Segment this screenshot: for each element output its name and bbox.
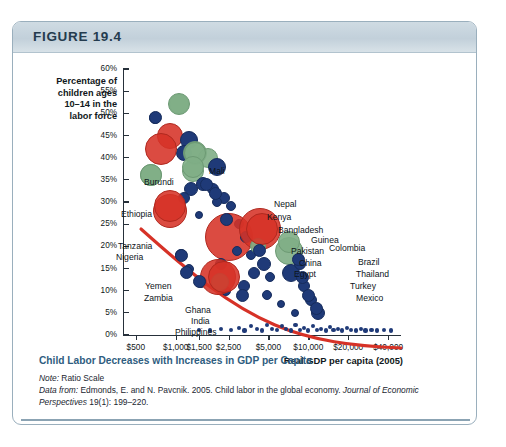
chart-plot-area: Percentage of children ages 10–14 in the… [13,53,477,353]
caption-source-text: Edmonds, E. and N. Pavcnik. 2005. Child … [78,385,343,395]
bubble [265,272,275,282]
bubble-yemen [175,249,188,262]
caption-title: Child Labor Decreases with Increases in … [39,355,312,366]
country-label-turkey: Turkey [350,281,376,291]
bubble-small [389,328,393,332]
bubble-india [208,261,240,293]
bubble-small [324,328,328,332]
bubble-kenya [182,156,204,178]
bubble-turkey [302,289,315,302]
country-label-egypt: Egypt [294,269,316,279]
bubble [232,246,242,256]
bubble-small [229,328,233,332]
caption-source-prefix: Data from: [39,385,78,395]
bubble-nigeria [154,190,186,222]
bubble-guinea [209,187,222,200]
caption-source: Data from: Edmonds, E. and N. Pavcnik. 2… [39,385,457,408]
country-label-nepal: Nepal [274,199,296,209]
country-label-pakistan: Pakistan [291,246,324,256]
bubble-small [270,327,274,331]
country-label-zambia: Zambia [144,293,173,303]
country-label-ghana: Ghana [185,305,211,315]
bubble-small [293,323,297,327]
bubble-small [311,324,315,328]
bubble-small [242,328,246,332]
country-label-ethiopia: Ethiopia [121,209,152,219]
trendline-svg [13,53,477,353]
bubble-ethiopia [145,133,177,165]
country-label-burundi: Burundi [144,177,174,187]
caption-rule [21,419,470,421]
bubble-small [363,328,367,332]
country-label-india: India [191,316,210,326]
bubble-small [340,328,344,332]
bubble-layer [13,53,477,353]
bubble-small [382,328,386,332]
country-label-kenya: Kenya [267,212,291,222]
figure-card: FIGURE 19.4 Percentage of children ages … [12,21,477,425]
bubble-small [375,328,379,332]
bubble-small [369,328,373,332]
country-label-colombia: Colombia [329,243,365,253]
caption-source-tail: 19(1): 199–220. [87,397,148,407]
country-label-yemen: Yemen [145,281,171,291]
country-label-philippines: Philippines [175,327,217,337]
caption-note-prefix: Note: [39,373,59,383]
country-label-brazil: Brazil [358,257,380,267]
bubble-burundi [149,111,162,124]
country-label-china: China [299,258,321,268]
country-label-mexico: Mexico [356,293,383,303]
caption-note: Note: Ratio Scale [39,373,104,383]
bubble-philippines [236,289,249,302]
country-label-nigeria: Nigeria [116,252,143,262]
bubble [277,300,285,308]
bubble-small [331,328,335,332]
caption-note-text: Ratio Scale [59,373,104,383]
country-label-thailand: Thailand [356,269,389,279]
bubble-mexico [310,302,323,315]
country-label-tanzania: Tanzania [118,241,152,251]
bubble-pakistan [220,213,233,226]
figure-number-label: FIGURE 19.4 [33,29,122,44]
country-label-mali: Mali [209,166,225,176]
bubble-ghana [193,275,206,288]
bubble-small [289,328,293,332]
bubble-mali [168,93,190,115]
country-label-bangladesh: Bangladesh [278,225,323,235]
bubble-small [237,326,241,330]
bubble [248,267,260,279]
